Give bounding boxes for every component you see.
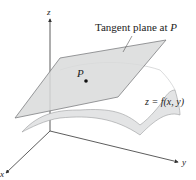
point-p (84, 79, 88, 83)
callout-text: Tangent plane at (95, 21, 170, 33)
z-axis-label: z (47, 8, 51, 17)
surface-label: z = f(x, y) (145, 97, 184, 107)
tangent-plane-callout: Tangent plane at P (95, 22, 177, 33)
tangent-plane (15, 40, 166, 118)
y-axis (50, 131, 178, 162)
tangent-plane-diagram: Tangent plane at P P z = f(x, y) z x y (0, 0, 196, 180)
y-axis-label: y (182, 158, 186, 167)
x-axis (6, 131, 50, 173)
point-p-label: P (77, 68, 84, 79)
callout-point: P (170, 21, 177, 33)
x-axis-label: x (0, 170, 4, 179)
